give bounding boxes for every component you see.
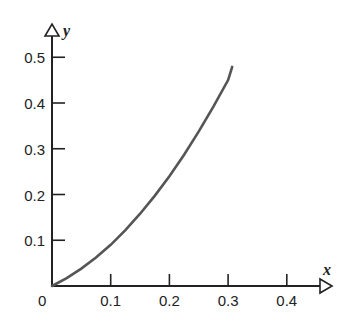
y-tick-label: 0.2 — [24, 187, 45, 204]
x-axis: x — [51, 261, 332, 293]
x-tick-label: 0.2 — [159, 292, 180, 309]
x-axis-label: x — [322, 261, 331, 278]
x-axis-arrow-icon — [320, 279, 332, 293]
y-tick-label: 0.4 — [24, 95, 45, 112]
y-axis-arrow-icon — [45, 24, 59, 36]
y-axis-label: y — [61, 22, 71, 40]
x-tick-label: 0.4 — [276, 292, 297, 309]
x-tick-label: 0.1 — [100, 292, 121, 309]
origin-label: 0 — [38, 292, 46, 309]
data-curve — [52, 67, 232, 286]
y-ticks: 0.10.20.30.40.5 — [24, 49, 65, 249]
y-axis: y — [45, 22, 71, 287]
x-tick-label: 0.3 — [218, 292, 239, 309]
x-ticks: 0.10.20.30.4 — [100, 274, 297, 309]
y-tick-label: 0.1 — [24, 232, 45, 249]
y-tick-label: 0.5 — [24, 49, 45, 66]
y-tick-label: 0.3 — [24, 141, 45, 158]
chart: y x 0 0.10.20.30.4 0.10.20.30.40.5 — [0, 0, 348, 322]
